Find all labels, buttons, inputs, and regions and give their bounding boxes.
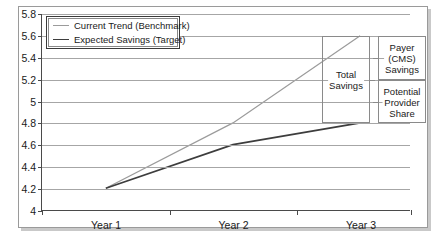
y-axis-label: 5.6 bbox=[21, 31, 36, 42]
x-axis-label: Year 3 bbox=[346, 220, 376, 231]
annotation-provider-share: Potential Provider Share bbox=[383, 85, 422, 118]
y-axis-label: 5.2 bbox=[21, 74, 36, 85]
annotation-total-savings: Total Savings bbox=[328, 69, 364, 91]
bracket-payer-savings-tick bbox=[373, 58, 379, 59]
legend-line-benchmark-icon bbox=[53, 25, 69, 26]
bracket-total-savings-tick bbox=[369, 80, 375, 81]
gridline bbox=[42, 167, 410, 168]
gridline bbox=[42, 14, 410, 15]
y-axis-tick bbox=[38, 167, 42, 168]
y-axis-tick bbox=[38, 102, 42, 103]
x-axis-label: Year 2 bbox=[219, 220, 249, 231]
x-axis-label: Year 1 bbox=[91, 220, 121, 231]
legend-item-benchmark: Current Trend (Benchmark) bbox=[53, 19, 173, 33]
y-axis-label: 4 bbox=[30, 206, 36, 217]
y-axis-label: 5 bbox=[30, 96, 36, 107]
y-axis-tick bbox=[38, 36, 42, 37]
y-axis-tick bbox=[38, 145, 42, 146]
y-axis-label: 4.2 bbox=[21, 184, 36, 195]
y-axis-tick bbox=[38, 14, 42, 15]
y-axis-label: 4.8 bbox=[21, 118, 36, 129]
y-axis-tick bbox=[38, 58, 42, 59]
y-axis-tick bbox=[38, 123, 42, 124]
series-line-target bbox=[106, 123, 360, 188]
gridline bbox=[42, 123, 410, 124]
y-axis-label: 4.4 bbox=[21, 162, 36, 173]
x-axis-tick bbox=[411, 210, 412, 215]
gridline bbox=[42, 145, 410, 146]
y-axis-tick bbox=[38, 189, 42, 190]
bracket-provider-share-tick bbox=[373, 102, 379, 103]
legend-line-target-icon bbox=[53, 39, 69, 40]
y-axis-label: 4.6 bbox=[21, 140, 36, 151]
x-axis-tick bbox=[170, 210, 171, 215]
y-axis-label: 5.4 bbox=[21, 53, 36, 64]
y-axis-label: 5.8 bbox=[21, 9, 36, 20]
legend-label-target: Expected Savings (Target) bbox=[74, 35, 185, 45]
x-axis-tick bbox=[42, 210, 43, 215]
chart-container: 5.85.65.45.254.84.64.44.24Year 1Year 2Ye… bbox=[0, 0, 448, 246]
annotation-payer-savings: Payer (CMS) Savings bbox=[384, 41, 420, 74]
x-axis-tick bbox=[297, 210, 298, 215]
y-axis-tick bbox=[38, 80, 42, 81]
legend-item-target: Expected Savings (Target) bbox=[53, 33, 173, 47]
gridline bbox=[42, 189, 410, 190]
chart-legend: Current Trend (Benchmark) Expected Savin… bbox=[46, 16, 180, 49]
legend-label-benchmark: Current Trend (Benchmark) bbox=[74, 21, 190, 31]
